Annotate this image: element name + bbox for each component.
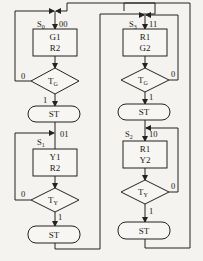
output-g2: G2: [140, 43, 151, 53]
asm-chart: S0 00 G1 R2 TG 0 1 ST S1 01 Y1 R2 TY 0 1…: [0, 0, 203, 261]
false-label: 0: [21, 71, 25, 81]
output-r2: R2: [50, 43, 61, 53]
state-code-s1: 01: [60, 129, 69, 139]
false-label: 0: [21, 189, 25, 199]
svg-text:ST: ST: [49, 230, 60, 240]
output-g1: G1: [50, 32, 61, 42]
svg-text:ST: ST: [139, 107, 150, 117]
svg-text:ST: ST: [139, 226, 150, 236]
state-name-s1: S1: [37, 137, 45, 148]
output-r1: R1: [140, 144, 151, 154]
state-code-s3: 11: [149, 19, 157, 29]
false-label: 0: [171, 181, 175, 191]
output-r2: R2: [50, 163, 61, 173]
output-r1: R1: [140, 32, 151, 42]
svg-text:ST: ST: [49, 109, 60, 119]
state-s0: S0 00 G1 R2 TG 0 1 ST: [15, 11, 80, 161]
state-name-s3: S3: [129, 19, 137, 30]
true-label: 1: [149, 92, 153, 102]
output-y2: Y2: [140, 155, 151, 165]
state-s3: S3 11 R1 G2 TG 0 1 ST: [118, 15, 178, 141]
false-label: 0: [171, 69, 175, 79]
output-y1: Y1: [50, 152, 61, 162]
true-label: 1: [43, 95, 47, 105]
state-name-s2: S2: [125, 129, 133, 140]
state-name-s0: S0: [37, 19, 45, 30]
state-code-s2: 10: [149, 129, 158, 139]
true-label: 1: [149, 206, 153, 216]
true-label: 1: [58, 212, 62, 222]
state-code-s0: 00: [59, 19, 68, 29]
